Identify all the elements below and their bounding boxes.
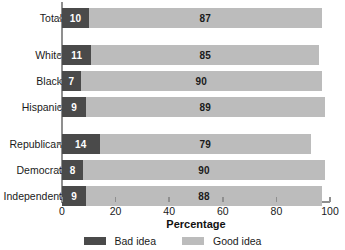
bar-segment-good-idea: 90 xyxy=(83,160,324,180)
bar-segment-bad-idea: 11 xyxy=(62,45,91,65)
y-tick-label: Hispanic xyxy=(6,97,62,117)
bar-segment-bad-idea: 8 xyxy=(62,160,83,180)
y-tick-mark xyxy=(57,54,62,56)
legend-swatch xyxy=(84,237,106,245)
x-tick-label: 40 xyxy=(163,205,175,217)
bar-row: 1185 xyxy=(62,45,330,65)
bar-segment-good-idea: 87 xyxy=(89,8,322,28)
x-tick-mark xyxy=(168,197,170,202)
bar-value-label: 85 xyxy=(91,45,319,65)
plot-area: 108711857909891479890988 xyxy=(62,0,330,202)
chart-legend: Bad ideaGood idea xyxy=(0,234,345,248)
bar-row: 1479 xyxy=(62,134,330,154)
y-tick-label: Independent xyxy=(6,186,62,206)
bar-row: 989 xyxy=(62,97,330,117)
bar-value-label: 90 xyxy=(81,71,322,91)
legend-label: Bad idea xyxy=(115,235,156,247)
legend-swatch xyxy=(182,237,204,245)
bar-value-label: 90 xyxy=(83,160,324,180)
bar-value-label: 79 xyxy=(100,134,312,154)
y-tick-label: Total xyxy=(6,8,62,28)
bar-row: 1087 xyxy=(62,8,330,28)
x-axis-title: Percentage xyxy=(62,218,330,230)
category-label-democrat: Democrat xyxy=(0,160,62,180)
bar-value-label: 11 xyxy=(62,45,91,65)
bar-value-label: 14 xyxy=(62,134,100,154)
legend-item-good-idea: Good idea xyxy=(182,235,261,247)
stacked-bar-chart: 108711857909891479890988 020406080100 Pe… xyxy=(0,0,345,250)
y-tick-mark xyxy=(57,143,62,145)
x-tick-label: 80 xyxy=(271,205,283,217)
bar-value-label: 10 xyxy=(62,8,89,28)
bar-segment-good-idea: 79 xyxy=(100,134,312,154)
bar-row: 890 xyxy=(62,160,330,180)
category-label-republican: Republican xyxy=(0,134,62,154)
bar-segment-good-idea: 85 xyxy=(91,45,319,65)
bar-segment-good-idea: 89 xyxy=(86,97,325,117)
bar-value-label: 7 xyxy=(62,71,81,91)
bar-segment-bad-idea: 7 xyxy=(62,71,81,91)
category-label-black: Black xyxy=(0,71,62,91)
y-tick-label: Republican xyxy=(6,134,62,154)
x-tick-label: 100 xyxy=(321,205,339,217)
bar-value-label: 87 xyxy=(89,8,322,28)
bar-segment-bad-idea: 9 xyxy=(62,97,86,117)
y-tick-label: Democrat xyxy=(6,160,62,180)
bar-value-label: 9 xyxy=(62,97,86,117)
x-tick-label: 20 xyxy=(110,205,122,217)
y-tick-label: Black xyxy=(6,71,62,91)
y-tick-mark xyxy=(57,80,62,82)
legend-item-bad-idea: Bad idea xyxy=(84,235,156,247)
y-tick-mark xyxy=(57,169,62,171)
bar-value-label: 8 xyxy=(62,160,83,180)
y-tick-mark xyxy=(57,195,62,197)
bar-segment-good-idea: 90 xyxy=(81,71,322,91)
x-tick-label: 0 xyxy=(59,205,65,217)
x-tick-mark xyxy=(329,197,331,202)
bar-segment-bad-idea: 14 xyxy=(62,134,100,154)
x-tick-label: 60 xyxy=(217,205,229,217)
bar-row: 790 xyxy=(62,71,330,91)
x-tick-mark xyxy=(115,197,117,202)
y-tick-mark xyxy=(57,17,62,19)
x-tick-mark xyxy=(222,197,224,202)
y-tick-mark xyxy=(57,106,62,108)
y-tick-label: White xyxy=(6,45,62,65)
x-tick-mark xyxy=(276,197,278,202)
legend-label: Good idea xyxy=(213,235,261,247)
category-label-white: White xyxy=(0,45,62,65)
category-label-hispanic: Hispanic xyxy=(0,97,62,117)
category-label-total: Total xyxy=(0,8,62,28)
category-label-independent: Independent xyxy=(0,186,62,206)
bar-segment-bad-idea: 10 xyxy=(62,8,89,28)
bar-value-label: 89 xyxy=(86,97,325,117)
